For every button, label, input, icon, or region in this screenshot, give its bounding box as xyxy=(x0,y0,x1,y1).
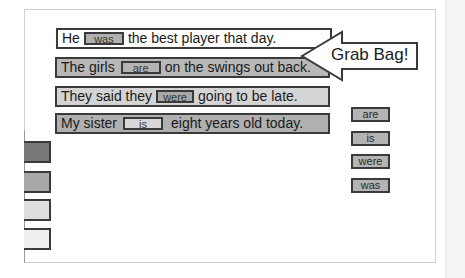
window-edge xyxy=(445,0,465,278)
sentence-row-2: The girls are on the swings out back. xyxy=(55,57,330,78)
sentence-row-3: They said they were going to be late. xyxy=(55,86,330,107)
grab-bag-label: Grab Bag! xyxy=(331,45,409,65)
sentence-row-1: He was the best player that day. xyxy=(56,28,332,49)
answer-blank[interactable]: was xyxy=(84,32,124,45)
word-chip-was[interactable]: was xyxy=(351,178,390,193)
grab-bag-button[interactable]: Grab Bag! xyxy=(300,30,419,82)
word-chip-are[interactable]: are xyxy=(351,107,390,122)
answer-blank[interactable]: is xyxy=(123,117,163,130)
color-swatch-medium[interactable] xyxy=(24,171,51,193)
sentence-text-after: going to be late. xyxy=(198,88,298,105)
answer-blank[interactable]: were xyxy=(156,90,194,103)
sentence-text-before: They said they xyxy=(61,88,152,105)
sentence-text-after: on the swings out back. xyxy=(165,59,311,76)
sentence-row-4: My sister is eight years old today. xyxy=(55,113,330,134)
sentence-text-before: He xyxy=(62,30,80,47)
sentence-text-after: eight years old today. xyxy=(171,115,303,132)
word-chip-were[interactable]: were xyxy=(351,154,390,169)
color-swatch-lightest[interactable] xyxy=(24,228,51,250)
word-chip-is[interactable]: is xyxy=(351,131,390,146)
sentence-text-after: the best player that day. xyxy=(128,30,276,47)
color-swatch-light[interactable] xyxy=(24,199,51,221)
answer-blank[interactable]: are xyxy=(121,61,161,74)
sentence-text-before: The girls xyxy=(61,59,115,76)
sentence-text-before: My sister xyxy=(61,115,117,132)
color-swatch-dark[interactable] xyxy=(24,141,51,163)
